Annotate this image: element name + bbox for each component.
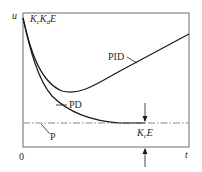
k-symbol: K	[137, 127, 144, 138]
origin-label: 0	[19, 152, 24, 162]
p-leader-line	[41, 124, 50, 134]
pid-label: PID	[108, 52, 124, 62]
arrow-head-up-icon	[143, 148, 148, 154]
initial-value-label: KcKdE	[30, 14, 56, 26]
arrow-head-down-icon	[143, 116, 148, 122]
e-symbol: E	[147, 127, 153, 138]
pid-leader-line	[127, 57, 137, 63]
pid-curve	[23, 18, 189, 92]
pd-label: PD	[69, 100, 82, 110]
e-symbol: E	[50, 13, 56, 24]
y-axis-label: u	[12, 11, 17, 21]
x-axis-label: t	[185, 150, 188, 160]
p-label: P	[50, 132, 56, 142]
k-symbol: K	[30, 13, 37, 24]
steady-value-label: KcE	[137, 128, 153, 140]
